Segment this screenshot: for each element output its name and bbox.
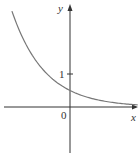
y-tick-label-1: 1 bbox=[59, 68, 65, 80]
exponential-curve bbox=[12, 11, 138, 105]
x-axis-label: x bbox=[130, 111, 136, 123]
chart: y x 0 1 bbox=[0, 0, 139, 163]
y-axis-arrow-icon bbox=[68, 4, 73, 11]
origin-label: 0 bbox=[61, 109, 67, 121]
y-axis-label: y bbox=[57, 2, 63, 14]
